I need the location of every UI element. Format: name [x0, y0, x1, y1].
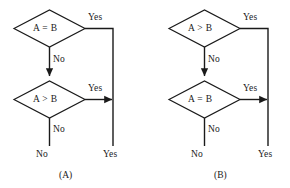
decision-2-yes-label: Yes [243, 84, 257, 94]
panel-a-graphics [0, 0, 145, 188]
flowchart-panel-b: A > B Yes No A = B Yes No No Yes (B) [145, 0, 290, 188]
terminal-no-label: No [191, 150, 203, 160]
decision-2-condition: A > B [33, 95, 57, 105]
decision-1-condition: A > B [188, 24, 212, 34]
flowchart-figure: A = B Yes No A > B Yes No No Yes (A) [0, 0, 290, 188]
decision-1-condition: A = B [33, 24, 57, 34]
terminal-no-label: No [36, 150, 48, 160]
flowchart-panel-a: A = B Yes No A > B Yes No No Yes (A) [0, 0, 145, 188]
decision-2-yes-label: Yes [88, 84, 102, 94]
panel-a-caption: (A) [59, 171, 72, 181]
panel-b-caption: (B) [214, 171, 227, 181]
decision-2-condition: A = B [188, 95, 212, 105]
terminal-yes-label: Yes [258, 150, 272, 160]
decision-1-yes-label: Yes [243, 13, 257, 23]
terminal-yes-label: Yes [103, 150, 117, 160]
decision-1-no-label: No [53, 55, 65, 65]
decision-1-yes-label: Yes [88, 13, 102, 23]
decision-2-no-label: No [208, 125, 220, 135]
decision-1-no-label: No [208, 55, 220, 65]
panel-b-graphics [145, 0, 290, 188]
decision-2-no-label: No [53, 125, 65, 135]
